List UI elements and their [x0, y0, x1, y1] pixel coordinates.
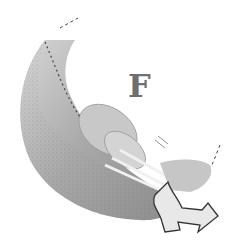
figure-label: F [128, 70, 151, 102]
illustration: F [0, 0, 244, 242]
anatomical-figure [0, 0, 244, 242]
